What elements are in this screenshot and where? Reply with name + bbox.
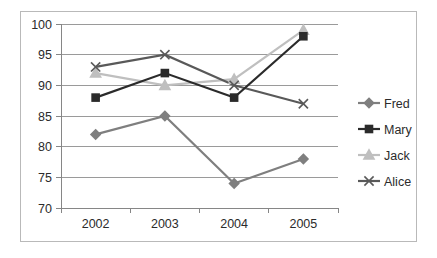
data-point-mary-2003 <box>161 70 168 77</box>
x-axis-tick-label: 2003 <box>151 217 179 231</box>
data-point-mary-2004 <box>231 94 238 101</box>
y-axis-tick-label: 95 <box>38 48 52 62</box>
y-axis-tick-label: 80 <box>38 140 52 154</box>
series-line-mary <box>96 36 304 97</box>
x-axis-tick-label: 2002 <box>82 217 110 231</box>
y-axis-tick-label: 100 <box>31 18 52 32</box>
legend-label-mary: Mary <box>384 123 413 137</box>
data-point-mary-2005 <box>300 33 307 40</box>
chart-container: 7075808590951002002200320042005FredMaryJ… <box>20 11 417 242</box>
legend-label-fred: Fred <box>384 97 410 111</box>
legend-marker-mary <box>366 126 373 133</box>
data-point-mary-2002 <box>92 94 99 101</box>
x-axis-tick-label: 2004 <box>220 217 248 231</box>
line-chart: 7075808590951002002200320042005FredMaryJ… <box>21 12 416 241</box>
series-line-fred <box>96 116 304 183</box>
y-axis-tick-label: 90 <box>38 79 52 93</box>
x-axis-tick-label: 2005 <box>289 217 317 231</box>
data-point-fred-2002 <box>91 130 100 139</box>
legend-label-alice: Alice <box>384 175 411 189</box>
data-point-fred-2005 <box>299 154 308 163</box>
legend-label-jack: Jack <box>384 149 410 163</box>
series-line-jack <box>96 30 304 85</box>
y-axis-tick-label: 75 <box>38 171 52 185</box>
legend-marker-fred <box>364 98 373 107</box>
y-axis-tick-label: 85 <box>38 110 52 124</box>
y-axis-tick-label: 70 <box>38 202 52 216</box>
